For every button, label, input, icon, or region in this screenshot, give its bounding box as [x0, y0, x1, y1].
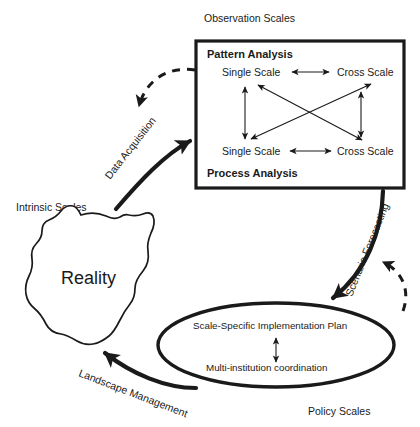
- dashed-arc-observation-feedback: [139, 69, 195, 106]
- policy-scales-label: Policy Scales: [308, 405, 370, 417]
- node-single-scale-top: Single Scale: [222, 66, 281, 78]
- node-cross-scale-top: Cross Scale: [337, 66, 394, 78]
- reality-label: Reality: [61, 268, 116, 288]
- process-analysis-footer: Process Analysis: [207, 167, 298, 179]
- pattern-analysis-header: Pattern Analysis: [207, 48, 293, 60]
- analysis-box: [196, 41, 404, 188]
- node-single-scale-bottom: Single Scale: [222, 145, 281, 157]
- scale-specific-plan-label: Scale-Specific Implementation Plan: [193, 320, 347, 331]
- dashed-arc-policy-feedback: [383, 262, 406, 311]
- node-cross-scale-bottom: Cross Scale: [337, 145, 394, 157]
- scenario-forecasting-label: Scenario Forecasting: [343, 201, 391, 298]
- multi-institution-label: Multi-institution coordination: [206, 362, 327, 373]
- landscape-management-label: Landscape Management: [77, 367, 189, 420]
- scale-framework-diagram: Observation Scales Pattern Analysis Sing…: [0, 0, 420, 427]
- diagram-canvas: Observation Scales Pattern Analysis Sing…: [0, 0, 420, 427]
- observation-scales-label: Observation Scales: [204, 12, 295, 24]
